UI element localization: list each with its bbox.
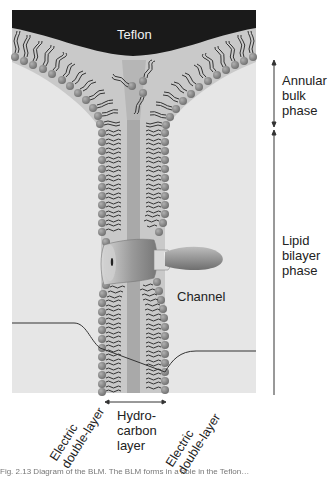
channel-label: Channel <box>177 289 225 304</box>
teflon-label: Teflon <box>117 27 152 42</box>
blm-diagram: Teflon Channel Annular bulk phase Lipid … <box>0 0 335 480</box>
hydrocarbon-layer-label: Hydro- carbon layer <box>117 408 157 453</box>
bilayer-phase-arrow <box>272 130 276 395</box>
annular-phase-label: Annular bulk phase <box>282 73 327 118</box>
bilayer-phase-label: Lipid bilayer phase <box>282 233 320 278</box>
figure-caption: Fig. 2.13 Diagram of the BLM. The BLM fo… <box>0 467 249 476</box>
hydrocarbon-arrow <box>105 400 166 404</box>
annular-phase-arrow <box>272 60 276 127</box>
